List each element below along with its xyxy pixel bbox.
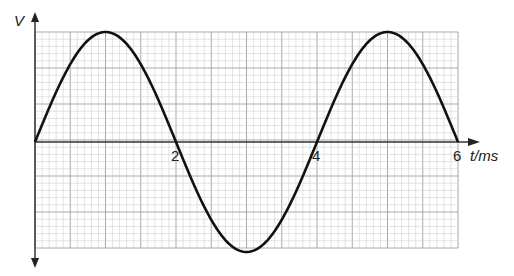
y-axis-down-arrow-icon [31,258,39,268]
x-tick-label-6: 6 [453,147,461,164]
voltage-time-chart: V 2 4 6 t/ms [0,0,514,276]
x-tick-label-2: 2 [171,147,179,164]
x-axis-arrow-icon [468,138,480,146]
x-axis-label: t/ms [470,147,499,164]
grid [35,32,458,248]
y-axis-up-arrow-icon [31,12,39,22]
y-axis-label: V [14,12,26,29]
x-tick-label-4: 4 [312,147,320,164]
